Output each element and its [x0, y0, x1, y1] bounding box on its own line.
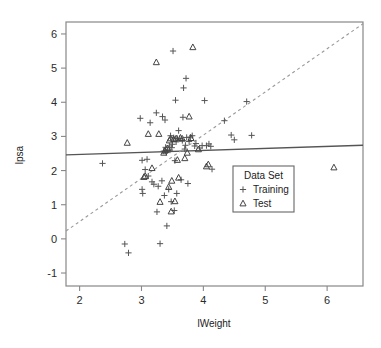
point-marker-plus [122, 241, 128, 247]
point-marker-triangle [331, 164, 337, 170]
x-tick-label: 4 [200, 294, 206, 306]
point-marker-triangle [169, 178, 175, 184]
point-marker-triangle [149, 165, 155, 171]
x-axis-tick-labels: 23456 [77, 294, 331, 306]
point-marker-plus [174, 190, 180, 196]
x-axis-title: lWeight [197, 318, 230, 329]
point-marker-plus [180, 85, 186, 91]
point-marker-plus [147, 120, 153, 126]
point-marker-plus [231, 137, 237, 143]
y-tick-label: 3 [51, 130, 57, 142]
point-marker-plus [182, 142, 188, 148]
point-marker-plus [139, 186, 145, 192]
point-marker-plus [249, 132, 255, 138]
trend-lines [66, 24, 363, 231]
y-tick-label: 2 [51, 165, 57, 177]
point-marker-plus [99, 160, 105, 166]
y-tick-label: 6 [51, 28, 57, 40]
x-tick-label: 6 [324, 294, 330, 306]
point-marker-plus [139, 157, 145, 163]
plot-canvas: 23456 -10123456 Data SetTrainingTest lWe… [0, 0, 381, 348]
point-marker-plus [157, 241, 163, 247]
point-marker-triangle [186, 113, 192, 119]
point-marker-plus [125, 250, 131, 256]
x-tick-label: 5 [262, 294, 268, 306]
series-test [124, 44, 337, 214]
point-marker-triangle [157, 199, 163, 205]
point-marker-plus [154, 209, 160, 215]
y-tick-label: -1 [47, 267, 57, 279]
point-marker-plus [159, 178, 165, 184]
y-tick-label: 1 [51, 199, 57, 211]
identity-reference [66, 24, 363, 231]
point-marker-plus [180, 114, 186, 120]
point-marker-plus [183, 75, 189, 81]
point-marker-plus [228, 132, 234, 138]
point-marker-plus [172, 97, 178, 103]
point-marker-plus [176, 128, 182, 134]
y-tick-label: 0 [51, 233, 57, 245]
point-marker-triangle [153, 59, 159, 65]
legend[interactable]: Data SetTrainingTest [233, 166, 294, 212]
point-marker-triangle [156, 131, 162, 137]
point-marker-plus [164, 223, 170, 229]
y-axis-tick-labels: -10123456 [47, 28, 57, 279]
legend-title: Data Set [244, 170, 283, 181]
y-tick-label: 5 [51, 62, 57, 74]
y-axis-title: lpsa [14, 145, 25, 164]
point-marker-plus [185, 180, 191, 186]
point-marker-plus [161, 192, 167, 198]
x-tick-label: 2 [77, 294, 83, 306]
point-marker-plus [144, 156, 150, 162]
point-marker-plus [221, 118, 227, 124]
y-tick-label: 4 [51, 96, 57, 108]
point-marker-triangle [190, 44, 196, 50]
point-marker-triangle [145, 131, 151, 137]
legend-entry-label[interactable]: Test [253, 198, 272, 209]
point-marker-triangle [182, 155, 188, 161]
point-marker-plus [202, 97, 208, 103]
x-tick-label: 3 [138, 294, 144, 306]
regression-fit [66, 145, 363, 155]
axis-ticks [61, 34, 327, 291]
point-marker-plus [137, 115, 143, 121]
point-marker-triangle [168, 208, 174, 214]
point-marker-plus [153, 110, 159, 116]
point-marker-plus [140, 190, 146, 196]
point-marker-triangle [172, 198, 178, 204]
point-marker-triangle [124, 140, 130, 146]
legend-entry-label[interactable]: Training [253, 184, 289, 195]
scatter-plot-figure: 23456 -10123456 Data SetTrainingTest lWe… [0, 0, 381, 348]
point-marker-plus [170, 48, 176, 54]
